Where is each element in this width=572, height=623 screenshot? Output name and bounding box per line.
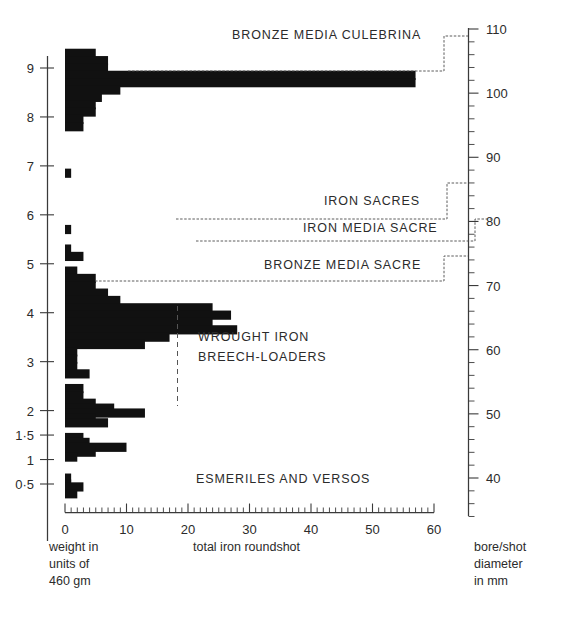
bottom-tick-label-2: 20: [181, 522, 195, 537]
right-tick-label-0: 110: [486, 22, 507, 37]
left-tick-label-5: 4: [27, 306, 34, 321]
left-tick-label-8: 1·5: [15, 428, 34, 443]
right-tick-label-7: 40: [486, 471, 500, 486]
label-wrought-iron-breech-loaders: WROUGHT IRON: [198, 330, 309, 344]
left-tick-label-1: 8: [27, 110, 34, 125]
bottom-axis-caption: total iron roundshot: [193, 540, 301, 554]
left-tick-label-0: 9: [27, 61, 34, 76]
histogram-bars: [65, 49, 416, 499]
leader-iron-sacres: [176, 183, 468, 219]
left-tick-label-3: 6: [27, 208, 34, 223]
left-axis-caption-line1: weight in: [48, 540, 98, 554]
right-axis-tick-labels: 110100908070605040: [486, 22, 508, 486]
bottom-axis: 0102030405060: [61, 504, 441, 538]
bottom-tick-label-6: 60: [427, 522, 441, 537]
label-wrought-iron-breech-loaders-2: BREECH-LOADERS: [198, 350, 327, 364]
right-tick-label-6: 50: [486, 407, 500, 422]
right-tick-label-2: 90: [486, 150, 500, 165]
histogram-bar: [65, 452, 77, 461]
histogram-bar: [65, 225, 71, 234]
label-iron-sacres: IRON SACRES: [324, 194, 420, 208]
histogram-bar: [65, 418, 108, 427]
right-axis: 110100908070605040: [469, 22, 508, 516]
histogram-bar: [65, 489, 77, 498]
chart-canvas: 987654321·510·5 0102030405060 1101009080…: [0, 0, 572, 623]
histogram-bar: [65, 369, 90, 378]
right-axis-caption-line3: in mm: [474, 574, 508, 588]
bottom-tick-label-5: 50: [365, 522, 379, 537]
histogram-bar: [65, 122, 83, 131]
left-axis-caption: weight in units of 460 gm: [48, 540, 98, 588]
bottom-tick-label-3: 30: [242, 522, 256, 537]
left-tick-label-4: 5: [27, 257, 34, 272]
right-axis-caption-line2: diameter: [474, 557, 523, 571]
right-axis-ticks: [469, 29, 479, 516]
left-axis-caption-line3: 460 gm: [49, 574, 91, 588]
bottom-tick-label-4: 40: [304, 522, 318, 537]
bottom-axis-ticks: [65, 504, 434, 513]
histogram-bar: [65, 252, 83, 261]
label-wrought-iron-line1: BRONZE MEDIA SACRE: [264, 258, 421, 272]
left-tick-label-10: 0·5: [15, 477, 34, 492]
left-axis-caption-line2: units of: [49, 557, 90, 571]
right-axis-caption: bore/shot diameter in mm: [474, 540, 527, 588]
bottom-axis-tick-labels: 0102030405060: [61, 522, 441, 537]
label-iron-media-sacre: IRON MEDIA SACRE: [303, 221, 438, 235]
left-tick-label-2: 7: [27, 159, 34, 174]
left-tick-label-7: 2: [27, 404, 34, 419]
left-axis-tick-labels: 987654321·510·5: [15, 61, 34, 492]
histogram-bar: [65, 169, 71, 178]
histogram-figure: 987654321·510·5 0102030405060 1101009080…: [0, 0, 572, 623]
left-axis: 987654321·510·5: [15, 56, 54, 541]
left-tick-label-6: 3: [27, 355, 34, 370]
right-axis-caption-line1: bore/shot: [474, 540, 527, 554]
label-bronze-media-culebrina: BRONZE MEDIA CULEBRINA: [232, 28, 421, 42]
right-tick-label-5: 60: [486, 343, 500, 358]
bottom-tick-label-0: 0: [61, 522, 68, 537]
bottom-tick-label-1: 10: [119, 522, 133, 537]
right-tick-label-4: 70: [486, 279, 500, 294]
label-esmeriles-and-versos: ESMERILES AND VERSOS: [196, 472, 370, 486]
left-tick-label-9: 1: [27, 453, 34, 468]
right-tick-label-3: 80: [486, 214, 500, 229]
right-tick-label-1: 100: [486, 86, 508, 101]
